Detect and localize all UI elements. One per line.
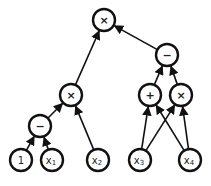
edge-add-to-sub_r	[154, 66, 162, 85]
node-x1: x1	[41, 149, 63, 171]
node-add: +	[139, 84, 161, 106]
node-mul_r: ×	[170, 84, 192, 106]
node-label: ×	[99, 14, 108, 27]
node-label: −	[162, 49, 171, 62]
node-x2: x2	[87, 149, 109, 171]
node-sub_r: −	[156, 44, 178, 66]
computation-graph: ×−×+×−1x1x2x3x4	[0, 0, 211, 186]
nodes: ×−×+×−1x1x2x3x4	[10, 9, 201, 171]
edge-mul_r-to-sub_r	[171, 66, 177, 84]
edge-one-to-sub_l	[26, 136, 34, 150]
node-label: +	[145, 89, 154, 102]
edge-x3-to-add	[142, 107, 149, 149]
edge-mul_m-to-root	[75, 31, 99, 85]
edge-sub_l-to-mul_m	[48, 103, 63, 118]
edge-x4-to-mul_r	[183, 107, 189, 149]
node-label: ×	[66, 89, 75, 102]
node-root: ×	[93, 9, 115, 31]
node-one: 1	[10, 149, 32, 171]
node-label: ×	[176, 89, 185, 102]
edge-sub_r-to-root	[114, 26, 157, 50]
node-x4: x4	[179, 149, 201, 171]
node-mul_m: ×	[60, 84, 82, 106]
node-sub_l: −	[29, 115, 51, 137]
node-label: 1	[18, 155, 24, 166]
node-label: −	[35, 120, 44, 133]
edge-x1-to-sub_l	[44, 137, 48, 149]
edge-x2-to-mul_m	[76, 106, 94, 150]
node-x3: x3	[129, 149, 151, 171]
